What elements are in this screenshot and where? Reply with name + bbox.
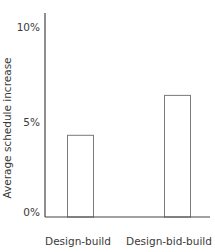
- y-tick-label: 0%: [23, 206, 40, 218]
- y-tick-label: 5%: [23, 116, 40, 128]
- bars: [68, 95, 191, 217]
- y-axis-ticks: 0%5%10%: [17, 21, 40, 218]
- x-category-label: Design-build: [45, 235, 111, 247]
- x-category-label: Design-bid-build: [126, 235, 212, 247]
- y-tick-label: 10%: [17, 21, 40, 33]
- bar-design-build: [68, 135, 94, 217]
- bar-design-bid-build: [165, 95, 191, 217]
- y-axis-title: Average schedule increase: [1, 57, 13, 198]
- x-axis-categories: Design-buildDesign-bid-build: [45, 235, 212, 247]
- bar-chart: Average schedule increase 0%5%10% Design…: [0, 0, 215, 252]
